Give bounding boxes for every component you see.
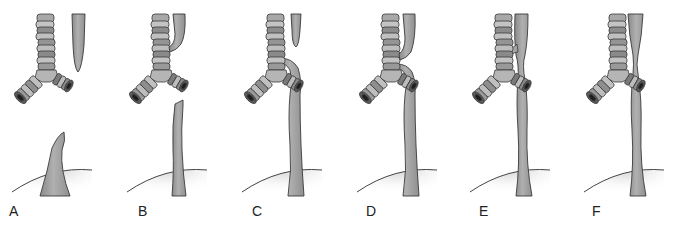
panel-b: [127, 14, 207, 200]
panel-f: [584, 14, 664, 200]
panel-label-e: E: [479, 203, 488, 219]
panel-label-b: B: [138, 203, 147, 219]
panel-d: [357, 14, 437, 200]
panel-label-d: D: [366, 203, 376, 219]
panel-label-c: C: [252, 203, 262, 219]
esophageal-atresia-diagram: [0, 0, 673, 225]
panel-a: [12, 14, 92, 200]
panel-e: [470, 14, 550, 200]
panel-c: [242, 14, 322, 200]
panel-label-f: F: [592, 203, 601, 219]
panel-label-a: A: [9, 203, 18, 219]
